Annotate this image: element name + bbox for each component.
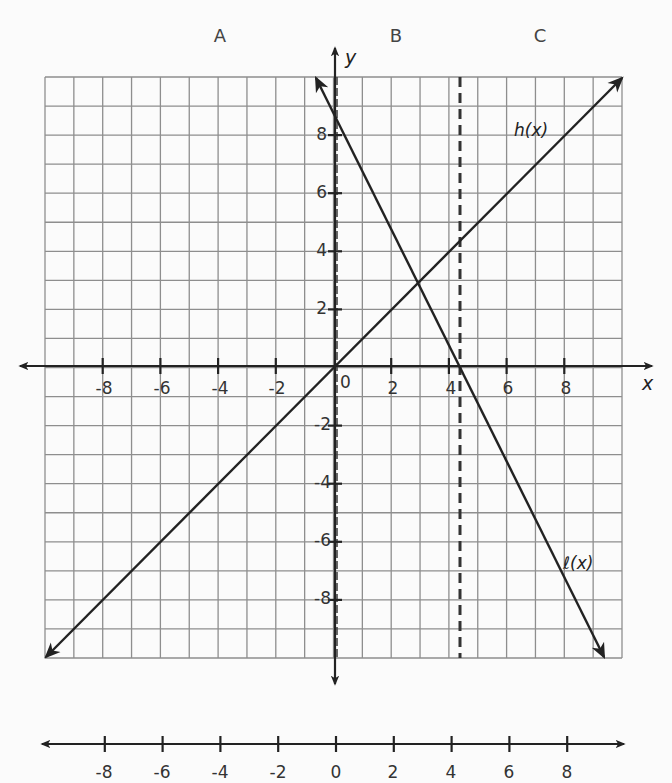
region-label-a: A: [214, 25, 227, 46]
number-line-label: -2: [270, 762, 287, 782]
x-tick-label: -8: [96, 378, 113, 398]
region-label-b: B: [390, 25, 402, 46]
x-tick-label: -6: [154, 378, 171, 398]
region-label-c: C: [534, 25, 547, 46]
number-line-label: -8: [96, 762, 113, 782]
y-tick-label: 4: [316, 240, 327, 260]
y-axis-label: y: [344, 46, 357, 68]
y-tick-label: 2: [316, 298, 327, 318]
x-axis-label: x: [641, 372, 654, 394]
number-line-label: -4: [212, 762, 229, 782]
h-function-label: h(x): [514, 120, 548, 140]
number-line-label: 6: [504, 762, 515, 782]
number-line-label: 4: [446, 762, 457, 782]
y-tick-label: -2: [314, 414, 331, 434]
y-tick-label: -6: [314, 530, 331, 550]
x-tick-label: 6: [503, 378, 514, 398]
origin-label: 0: [340, 372, 351, 392]
x-tick-label: 2: [388, 378, 399, 398]
y-tick-label: -4: [314, 472, 331, 492]
x-tick-label: 8: [561, 378, 572, 398]
number-line-label: 2: [388, 762, 399, 782]
number-line-label: 8: [562, 762, 573, 782]
l-function-label: ℓ(x): [562, 553, 593, 573]
y-tick-label: -8: [314, 588, 331, 608]
x-tick-label: -4: [212, 378, 229, 398]
y-tick-label: 8: [316, 124, 327, 144]
number-line-label: 0: [331, 762, 342, 782]
x-tick-label: -2: [269, 378, 286, 398]
y-tick-label: 6: [316, 182, 327, 202]
x-tick-label: 4: [446, 378, 457, 398]
number-line: -8 -6 -4 -2 0 2 4 6 8: [42, 736, 624, 782]
number-line-label: -6: [154, 762, 171, 782]
coordinate-plane-chart: A B C x y h(x) ℓ(x) 0 -8 -6 -4 -2 2 4 6 …: [0, 0, 672, 783]
